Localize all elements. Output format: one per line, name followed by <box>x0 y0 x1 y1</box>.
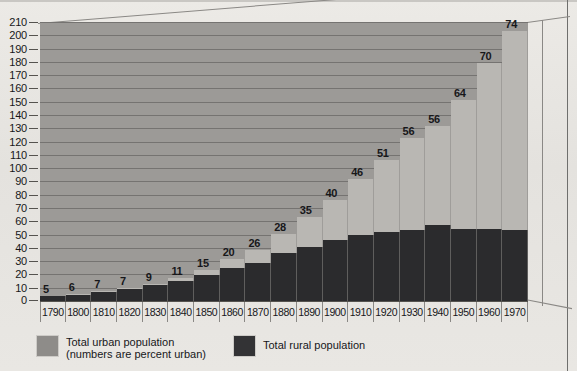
table-row[interactable] <box>425 126 451 301</box>
table-row[interactable] <box>400 138 426 301</box>
x-axis-label: 1790 <box>41 306 65 318</box>
bar-value-label: 9 <box>146 271 169 283</box>
bar-segment-rural <box>220 268 246 301</box>
bar-segment-rural <box>297 247 323 301</box>
x-axis-label: 1850 <box>194 306 219 318</box>
legend-item[interactable]: Total urban population(numbers are perce… <box>36 334 206 360</box>
bar-value-label: 20 <box>223 246 246 258</box>
table-row[interactable] <box>143 284 169 301</box>
table-row[interactable] <box>323 200 349 301</box>
y-tick-40 <box>29 248 38 249</box>
bar-segment-rural <box>168 281 194 301</box>
bar-segment-rural <box>502 230 528 301</box>
table-row[interactable] <box>91 291 117 301</box>
x-axis-label: 1940 <box>425 306 450 318</box>
table-row[interactable] <box>451 100 477 301</box>
bar-segment-rural <box>323 240 349 301</box>
gridline-170 <box>40 75 528 76</box>
bar-segment-rural <box>271 253 297 301</box>
y-tick-140 <box>29 115 38 116</box>
x-axis-tick-cell: 1820 <box>117 302 143 322</box>
legend-item[interactable]: Total rural population <box>233 334 365 357</box>
y-axis-label: 80 <box>15 189 27 201</box>
table-row[interactable] <box>297 217 323 301</box>
table-row[interactable] <box>117 288 143 301</box>
x-axis-label: 1900 <box>323 306 348 318</box>
y-tick-120 <box>29 142 38 143</box>
x-axis-tick-cell: 1970 <box>502 302 528 322</box>
y-axis-label: 200 <box>9 29 27 41</box>
y-tick-100 <box>29 168 38 169</box>
y-axis-label: 50 <box>15 229 27 241</box>
x-axis-tick-cell: 1830 <box>143 302 169 322</box>
x-axis-tick-cell: 1810 <box>91 302 117 322</box>
y-tick-90 <box>29 181 38 182</box>
x-axis-label: 1890 <box>297 306 322 318</box>
gridline-180 <box>40 62 528 63</box>
table-row[interactable] <box>66 294 92 301</box>
bar-value-label: 6 <box>69 281 92 293</box>
y-axis-label: 160 <box>9 82 27 94</box>
y-axis-label: 20 <box>15 268 27 280</box>
table-row[interactable] <box>220 259 246 301</box>
bar-value-label: 74 <box>505 18 528 30</box>
gridline-200 <box>40 35 528 36</box>
x-axis-tick-cell: 1840 <box>168 302 194 322</box>
table-row[interactable] <box>271 234 297 301</box>
legend-label-line1: Total rural population <box>263 339 365 351</box>
y-axis-label: 110 <box>10 149 27 161</box>
y-axis-label: 60 <box>15 215 27 227</box>
y-tick-200 <box>29 35 38 36</box>
bar-value-label: 11 <box>171 265 194 277</box>
x-axis-tick-cell: 1890 <box>297 302 323 322</box>
bar-value-label: 40 <box>326 187 349 199</box>
table-row[interactable] <box>194 270 220 301</box>
y-tick-130 <box>29 128 38 129</box>
x-axis-label: 1820 <box>117 306 142 318</box>
y-axis-label: 150 <box>9 96 27 108</box>
frame-bottom-border <box>0 0 577 2</box>
x-axis-label: 1930 <box>400 306 425 318</box>
bar-value-label: 35 <box>300 204 323 216</box>
table-row[interactable] <box>374 160 400 301</box>
table-row[interactable] <box>477 63 503 301</box>
y-tick-180 <box>29 62 38 63</box>
x-axis-label: 1840 <box>168 306 193 318</box>
legend-label-line2: (numbers are percent urban) <box>66 348 206 360</box>
perspective-right-wall <box>542 20 543 306</box>
y-axis-label: 10 <box>15 282 27 294</box>
bar-segment-rural <box>91 292 117 301</box>
y-tick-20 <box>29 274 38 275</box>
bar-value-label: 46 <box>351 166 374 178</box>
bar-value-label: 7 <box>120 275 143 287</box>
bar-segment-rural <box>143 285 169 301</box>
y-tick-190 <box>29 49 38 50</box>
y-tick-10 <box>29 288 38 289</box>
x-axis-label: 1920 <box>374 306 399 318</box>
y-tick-210 <box>29 22 38 23</box>
table-row[interactable] <box>168 278 194 301</box>
bar-segment-rural <box>451 229 477 301</box>
y-axis-label: 0 <box>21 294 27 306</box>
x-axis-label: 1880 <box>271 306 296 318</box>
table-row[interactable] <box>502 31 528 301</box>
bar-value-label: 56 <box>403 125 426 137</box>
x-axis-label: 1910 <box>348 306 373 318</box>
table-row[interactable] <box>245 250 271 301</box>
x-axis-tick-cell: 1800 <box>66 302 92 322</box>
legend-label: Total rural population <box>263 334 365 351</box>
y-tick-30 <box>29 261 38 262</box>
y-axis-label: 90 <box>15 175 27 187</box>
y-tick-60 <box>29 221 38 222</box>
bar-value-label: 70 <box>480 50 503 62</box>
y-tick-0 <box>29 300 38 301</box>
bar-segment-rural <box>117 289 143 301</box>
table-row[interactable] <box>348 179 374 301</box>
bar-segment-rural <box>348 235 374 301</box>
x-axis-tick-cell: 1960 <box>477 302 503 322</box>
perspective-top-edge <box>38 0 378 24</box>
x-axis-label: 1950 <box>451 306 476 318</box>
y-axis-label: 190 <box>9 43 27 55</box>
bar-segment-rural <box>374 232 400 301</box>
y-axis-label: 170 <box>9 69 27 81</box>
